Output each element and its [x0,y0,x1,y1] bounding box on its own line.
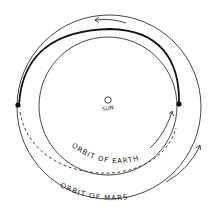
arrival-point [176,101,181,106]
arrow-left-icon [95,17,126,23]
sun-label: SUN [102,104,115,112]
mars-direction-arrow-icon [166,145,201,182]
dashed-path [20,112,176,173]
transfer-path [19,29,179,105]
earth-orbit-label: ORBIT OF EARTH [70,142,140,166]
mars-orbit-label: ORBIT OF MARS [59,182,129,203]
departure-point [15,102,20,107]
sun-icon [105,97,111,103]
orbit-diagram: SUN ORBIT OF EARTH ORBIT OF MARS [0,0,217,216]
